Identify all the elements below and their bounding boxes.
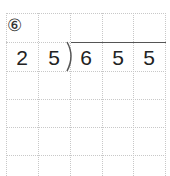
grid-line	[133, 13, 134, 176]
grid-line	[165, 13, 166, 176]
grid-line	[70, 13, 71, 176]
graph-paper-grid	[6, 13, 166, 176]
grid-line	[6, 13, 166, 14]
grid-line	[6, 155, 166, 156]
dividend-digit-ones: 5	[133, 43, 165, 72]
grid-line	[6, 13, 7, 176]
division-bracket-icon	[62, 41, 76, 72]
grid-line	[6, 99, 166, 100]
dividend-digit-tens: 5	[102, 43, 134, 72]
division-bar	[71, 42, 166, 43]
problem-number: ⑥	[7, 15, 22, 36]
grid-line	[38, 13, 39, 176]
divisor-digit-tens: 2	[6, 43, 38, 72]
grid-line	[102, 13, 103, 176]
grid-line	[6, 127, 166, 128]
